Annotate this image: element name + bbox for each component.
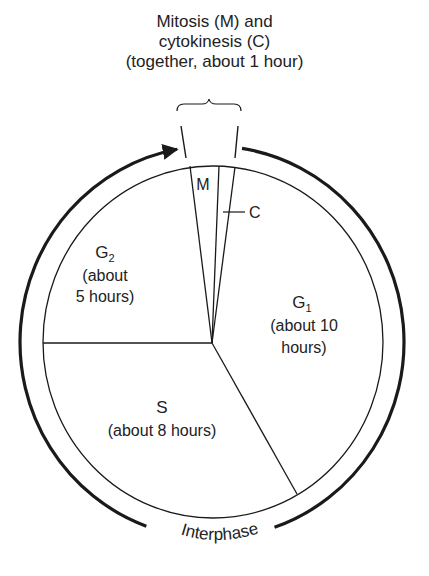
label-g2-note-2: 5 hours) xyxy=(76,288,135,305)
brace xyxy=(177,99,241,111)
gap-tick-right xyxy=(235,126,238,158)
label-s-note: (about 8 hours) xyxy=(108,422,217,439)
interphase-text: Interphase xyxy=(179,519,260,544)
label-interphase: Interphase xyxy=(179,519,260,544)
interphase-arc-right xyxy=(242,148,404,527)
g2-letter: G xyxy=(95,243,108,262)
cell-cycle-circle xyxy=(43,166,383,518)
label-g2-note-1: (about xyxy=(82,267,128,284)
label-g2: G2 xyxy=(95,243,114,264)
label-g1: G1 xyxy=(292,293,311,314)
gap-tick-left xyxy=(181,126,186,158)
label-g1-note-1: (about 10 xyxy=(270,317,338,334)
g1-letter: G xyxy=(292,293,305,312)
divider-g1-s xyxy=(212,343,297,494)
cell-cycle-diagram: M C G2 (about 5 hours) G1 (about 10 hour… xyxy=(0,0,429,576)
label-c: C xyxy=(249,204,261,221)
label-g1-note-2: hours) xyxy=(281,339,326,356)
label-s: S xyxy=(156,398,167,417)
g2-subscript: 2 xyxy=(109,252,115,264)
g1-subscript: 1 xyxy=(306,302,312,314)
label-m: M xyxy=(196,176,209,193)
